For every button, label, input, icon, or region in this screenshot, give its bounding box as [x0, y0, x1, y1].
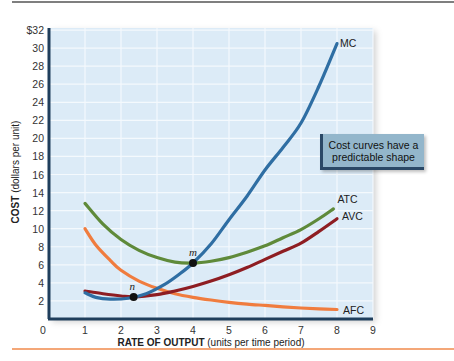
annotation-box: Cost curves have a predictable shape [320, 134, 424, 170]
y-tick-label: 16 [32, 169, 44, 181]
atc-label: ATC [337, 193, 358, 205]
x-tick-label: 4 [190, 324, 196, 336]
x-tick-label: 8 [334, 324, 340, 336]
y-tick-label: 28 [32, 60, 44, 72]
y-tick-label: 26 [32, 78, 44, 90]
point-n [130, 293, 138, 301]
annotation-text: Cost curves have a predictable shape [327, 139, 420, 163]
y-tick-label: 4 [38, 277, 44, 289]
y-tick-label: 8 [38, 241, 44, 253]
point-label-n: n [130, 280, 136, 292]
avc-label: AVC [342, 210, 363, 222]
cost-curves-chart: 24681012141618202224262830$32 0123456789… [0, 0, 454, 361]
mc-label: MC [340, 37, 357, 49]
afc-label: AFC [343, 304, 364, 316]
y-tick-label: 20 [32, 132, 44, 144]
y-tick-label: 14 [32, 187, 44, 199]
y-tick-label: 10 [32, 223, 44, 235]
point-label-m: m [189, 246, 197, 258]
x-tick-label: 6 [262, 324, 268, 336]
x-tick-label: 2 [118, 324, 124, 336]
y-tick-label: 18 [32, 150, 44, 162]
x-tick-label: 1 [82, 324, 88, 336]
x-tick-label: 7 [298, 324, 304, 336]
y-tick-label: 30 [32, 42, 44, 54]
y-tick-label: 22 [32, 114, 44, 126]
x-tick-label: 9 [370, 324, 376, 336]
y-tick-label: $32 [26, 24, 44, 36]
point-m [189, 259, 197, 267]
x-axis-ticks: 0123456789 [40, 324, 376, 336]
y-tick-label: 24 [32, 96, 44, 108]
y-axis-title: COST (dollars per unit) [10, 121, 21, 224]
x-tick-label: 0 [40, 324, 46, 336]
x-tick-label: 3 [154, 324, 160, 336]
y-tick-label: 12 [32, 205, 44, 217]
y-axis-ticks: 24681012141618202224262830$32 [26, 24, 44, 307]
x-tick-label: 5 [226, 324, 232, 336]
x-axis-title: RATE OF OUTPUT (units per time period) [117, 337, 304, 348]
y-tick-label: 6 [38, 259, 44, 271]
y-tick-label: 2 [38, 295, 44, 307]
